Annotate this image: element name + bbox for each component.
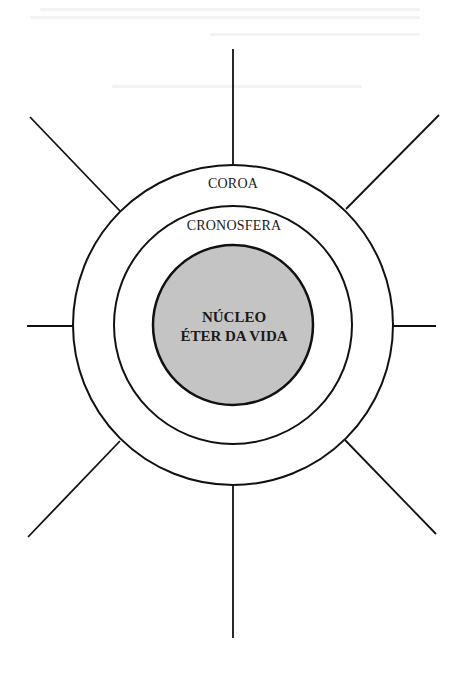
outer-ring-label: COROA [208, 176, 258, 192]
core-label-line2: ÉTER DA VIDA [180, 327, 287, 346]
spoke-south-west [28, 441, 120, 537]
core-label-line1: NÚCLEO [202, 308, 266, 327]
middle-ring-label: CRONOSFERA [187, 218, 282, 234]
spoke-north-west [30, 117, 120, 211]
diagram-canvas: COROA CRONOSFERA NÚCLEO ÉTER DA VIDA [0, 0, 467, 678]
spoke-south-east [345, 440, 436, 534]
spoke-north-east [346, 115, 439, 209]
